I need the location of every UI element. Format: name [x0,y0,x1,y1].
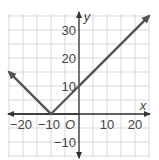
x-tick-label: −10 [38,117,60,132]
x-axis-label: x [139,98,147,113]
left-arrowhead [9,72,51,114]
graph: −20−101020 −10102030 x y O [0,0,159,160]
y-tick-label: 30 [62,23,76,38]
origin-label: O [65,117,75,132]
right-arrowhead [79,16,149,86]
x-tick-label: 20 [128,117,142,132]
x-tick-labels: −20−101020 [10,117,142,132]
x-tick-label: 10 [100,117,114,132]
y-tick-label: 20 [62,51,76,66]
y-tick-label: −10 [54,135,76,150]
y-tick-label: 10 [62,79,76,94]
x-tick-label: −20 [10,117,32,132]
